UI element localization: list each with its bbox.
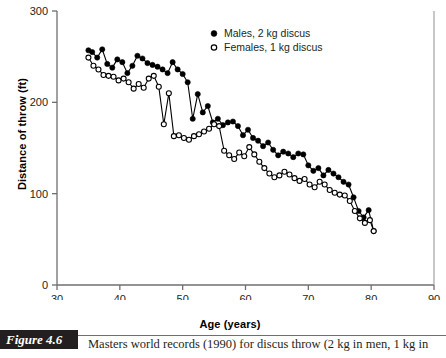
svg-text:80: 80	[365, 293, 377, 300]
svg-text:Females, 1 kg discus: Females, 1 kg discus	[224, 41, 323, 53]
y-axis-title: Distance of throw (ft)	[16, 64, 28, 204]
svg-text:50: 50	[177, 293, 189, 300]
svg-text:40: 40	[114, 293, 126, 300]
svg-text:70: 70	[302, 293, 314, 300]
chart-plot-area: 010020030030405060708090 Males, 2 kg dis…	[0, 0, 446, 300]
svg-text:300: 300	[30, 5, 48, 17]
svg-text:200: 200	[30, 96, 48, 108]
svg-text:Males, 2 kg discus: Males, 2 kg discus	[224, 27, 310, 39]
figure-container: 010020030030405060708090 Males, 2 kg dis…	[0, 0, 446, 358]
chart-legend: Males, 2 kg discusFemales, 1 kg discus	[211, 27, 323, 53]
figure-caption-block: Figure 4.6 Masters world records (1990) …	[0, 335, 446, 358]
svg-text:100: 100	[30, 188, 48, 200]
svg-text:60: 60	[239, 293, 251, 300]
x-axis-title: Age (years)	[170, 318, 290, 330]
figure-number-label: Figure 4.6	[6, 330, 78, 349]
svg-text:0: 0	[42, 279, 48, 291]
chart-svg: 010020030030405060708090 Males, 2 kg dis…	[0, 0, 446, 300]
figure-caption-text: Masters world records (1990) for discus …	[88, 335, 440, 354]
data-series-group	[86, 47, 376, 234]
svg-text:30: 30	[51, 293, 63, 300]
figure-number-box: Figure 4.6	[0, 330, 78, 349]
svg-text:90: 90	[428, 293, 440, 300]
